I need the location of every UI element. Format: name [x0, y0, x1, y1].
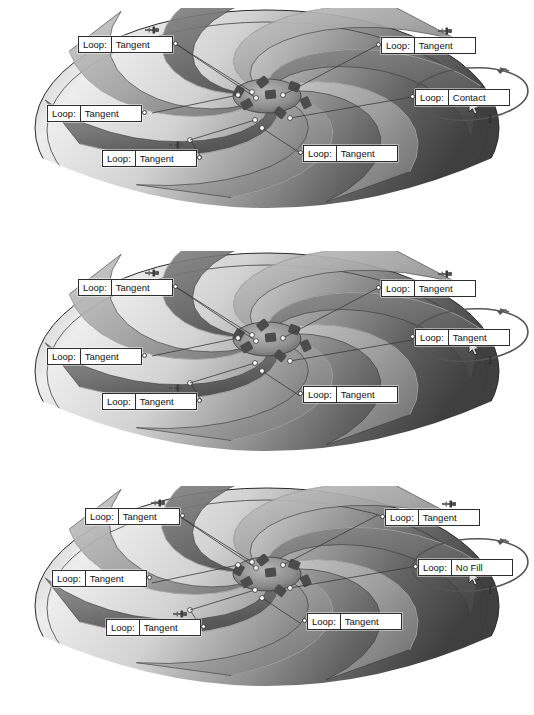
pushpin-icon[interactable]: [441, 495, 457, 505]
connector-dot-icon[interactable]: [376, 42, 381, 47]
pushpin-icon[interactable]: [168, 379, 184, 389]
callout-key: Loop:: [103, 394, 136, 409]
connector-dot-icon[interactable]: [142, 110, 147, 115]
callout-key: Loop:: [86, 509, 119, 524]
callout-value[interactable]: Tangent: [112, 37, 172, 52]
loop-callout-3[interactable]: Loop:Tangent: [102, 150, 197, 167]
callout-value[interactable]: Tangent: [112, 280, 172, 295]
callout-value[interactable]: Tangent: [86, 571, 146, 586]
callout-value[interactable]: Contact: [449, 90, 509, 105]
connector-dot-icon[interactable]: [197, 398, 202, 403]
pushpin-icon[interactable]: [437, 22, 453, 32]
loop-callout-5[interactable]: Loop:Contact: [415, 89, 510, 106]
loop-callout-3[interactable]: Loop:Tangent: [106, 619, 201, 636]
connector-dot-icon[interactable]: [380, 514, 385, 519]
loop-callout-2[interactable]: Loop:Tangent: [47, 348, 142, 365]
callout-value[interactable]: Tangent: [119, 509, 179, 524]
callout-key: Loop:: [304, 387, 337, 402]
loop-callout-6[interactable]: Loop:Tangent: [307, 613, 402, 630]
callout-value[interactable]: Tangent: [81, 106, 141, 121]
callout-value[interactable]: Tangent: [419, 510, 479, 525]
panel-tangent: ILoop:Tangent Loop:TangentLoop:Tangent L…: [0, 243, 534, 475]
loop-callout-1[interactable]: Loop:Tangent: [85, 508, 180, 525]
callout-key: Loop:: [386, 510, 419, 525]
loop-callout-5[interactable]: Loop:Tangent: [415, 329, 510, 346]
loop-callout-1[interactable]: Loop:Tangent: [78, 36, 173, 53]
loop-callout-4[interactable]: Loop:Tangent: [381, 280, 476, 297]
connector-dot-icon[interactable]: [173, 41, 178, 46]
pushpin-icon[interactable]: [144, 264, 160, 274]
connector-dot-icon[interactable]: [413, 564, 418, 569]
callout-key: Loop:: [79, 280, 112, 295]
callout-key: Loop:: [419, 560, 452, 575]
callout-value[interactable]: Tangent: [136, 151, 196, 166]
callout-key: Loop:: [416, 90, 449, 105]
connector-dot-icon[interactable]: [173, 284, 178, 289]
callout-key: Loop:: [308, 614, 341, 629]
loop-callout-3[interactable]: Loop:Tangent: [102, 393, 197, 410]
connector-dot-icon[interactable]: [376, 285, 381, 290]
callout-value[interactable]: No Fill: [452, 560, 512, 575]
loop-callout-2[interactable]: Loop:Tangent: [47, 105, 142, 122]
loop-callout-4[interactable]: Loop:Tangent: [385, 509, 480, 526]
callout-key: Loop:: [416, 330, 449, 345]
callout-value[interactable]: Tangent: [415, 281, 475, 296]
connector-dot-icon[interactable]: [410, 334, 415, 339]
callout-key: Loop:: [103, 151, 136, 166]
loop-callout-2[interactable]: Loop:Tangent: [52, 570, 147, 587]
loop-callout-1[interactable]: Loop:Tangent: [78, 279, 173, 296]
callout-value[interactable]: Tangent: [81, 349, 141, 364]
pushpin-icon[interactable]: [144, 21, 160, 31]
callout-value[interactable]: Tangent: [415, 38, 475, 53]
loop-callout-6[interactable]: Loop:Tangent: [303, 145, 398, 162]
connector-dot-icon[interactable]: [298, 150, 303, 155]
callout-key: Loop:: [107, 620, 140, 635]
connector-dot-icon[interactable]: [201, 624, 206, 629]
loop-callout-6[interactable]: Loop:Tangent: [303, 386, 398, 403]
callout-value[interactable]: Tangent: [140, 620, 200, 635]
pushpin-icon[interactable]: [437, 265, 453, 275]
connector-dot-icon[interactable]: [147, 575, 152, 580]
loop-callout-4[interactable]: Loop:Tangent: [381, 37, 476, 54]
callout-value[interactable]: Tangent: [341, 614, 401, 629]
callout-key: Loop:: [53, 571, 86, 586]
connector-dot-icon[interactable]: [410, 94, 415, 99]
callout-key: Loop:: [48, 106, 81, 121]
connector-dot-icon[interactable]: [197, 155, 202, 160]
callout-key: Loop:: [79, 37, 112, 52]
callout-key: Loop:: [382, 281, 415, 296]
callout-key: Loop:: [304, 146, 337, 161]
callout-value[interactable]: Tangent: [136, 394, 196, 409]
loop-callout-5[interactable]: Loop:No Fill: [418, 559, 513, 576]
callout-key: Loop:: [382, 38, 415, 53]
connector-dot-icon[interactable]: [142, 353, 147, 358]
pushpin-icon[interactable]: [168, 136, 184, 146]
connector-dot-icon[interactable]: [298, 391, 303, 396]
callout-value[interactable]: Tangent: [337, 387, 397, 402]
panel-no-fill: ILoop:Tangent Loop:TangentLoop:Tangent L…: [0, 478, 534, 710]
pushpin-icon[interactable]: [150, 494, 166, 504]
connector-dot-icon[interactable]: [180, 513, 185, 518]
callout-value[interactable]: Tangent: [449, 330, 509, 345]
callout-key: Loop:: [48, 349, 81, 364]
pushpin-icon[interactable]: [172, 605, 188, 615]
connector-dot-icon[interactable]: [302, 618, 307, 623]
panel-contact: ILoop:Tangent Loop:TangentLoop:Tangent L…: [0, 0, 534, 232]
callout-value[interactable]: Tangent: [337, 146, 397, 161]
